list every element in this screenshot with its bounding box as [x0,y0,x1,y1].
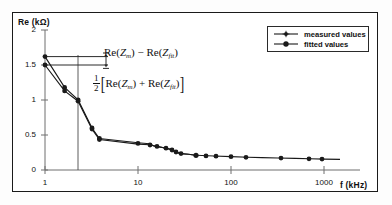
annotation-mean: 1 2 [Re(Zm) + Re(Zfit)] [93,74,185,93]
legend-label-fitted: fitted values [304,40,348,49]
filled-circle-marker-icon [283,41,288,46]
figure-container: Re (kΩ) f (kHz) 0 0.5 1 1.5 2 1 10 100 1… [0,0,392,205]
annotation-difference-op: ) − Re( [131,46,162,58]
y-tick-label-0: 0 [32,165,36,174]
x-tick-label-100: 100 [224,178,237,187]
legend: measured values fitted values [267,26,369,52]
annotation-mean-denominator: 2 [93,84,100,93]
annotation-mean-op: ) + Re( [133,77,164,89]
x-axis-title: f (kHz) [340,180,367,190]
x-tick-label-1: 1 [43,178,47,187]
y-tick-label-1: 1 [32,95,36,104]
callout-arrow-down [104,64,107,67]
x-tick-label-1000: 1000 [315,178,333,187]
annotation-difference: Re(Zm) − Re(Zfit) [104,46,178,60]
annotation-mean-lead: Re( [106,77,122,89]
annotation-mean-bracket-close: ] [180,75,185,93]
y-tick-label-0-5: 0.5 [25,130,36,139]
x-tick-label-10: 10 [134,178,143,187]
plus-glyph-icon [283,31,290,37]
annotation-difference-lead: Re( [104,46,120,58]
y-tick-label-1-5: 1.5 [25,60,36,69]
annotation-mean-body: Re(Zm) + Re(Zfit) [106,77,180,91]
annotation-mean-fraction: 1 2 [93,74,100,93]
series-measured-line [45,57,196,156]
annotation-difference-tail: ) [174,46,178,58]
y-tick-label-2: 2 [32,25,36,34]
annotation-mean-bracket-open: [ [100,75,105,93]
legend-label-measured: measured values [304,30,366,39]
